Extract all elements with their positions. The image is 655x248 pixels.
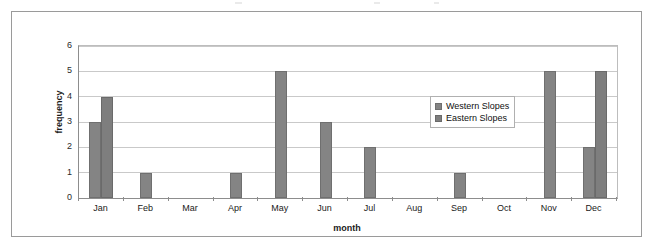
x-axis-tick	[437, 197, 438, 201]
y-axis-tick-label: 5	[48, 65, 72, 75]
scan-artifact	[434, 2, 439, 4]
x-axis-tick	[482, 197, 483, 201]
bar-feb-western	[140, 173, 152, 198]
x-axis-tick	[347, 197, 348, 201]
y-axis-tick-label: 0	[48, 192, 72, 202]
bar-group	[79, 46, 124, 198]
x-axis-tick-label-sep: Sep	[437, 203, 482, 213]
bar-dec-western	[583, 147, 595, 198]
chart-frame: frequency 0123456 JanFebMarAprMayJunJulA…	[11, 11, 642, 237]
x-axis-tick	[213, 197, 214, 201]
scan-artifact	[374, 2, 380, 4]
legend-swatch-icon	[435, 115, 442, 122]
x-axis-title: month	[78, 223, 616, 233]
x-axis-tick-label-apr: Apr	[213, 203, 258, 213]
legend-label: Western Slopes	[446, 101, 509, 112]
x-axis-tick-label-may: May	[257, 203, 302, 213]
bar-jan-eastern	[101, 97, 113, 198]
bar-group	[572, 46, 617, 198]
plot-area	[78, 45, 618, 199]
legend-label: Eastern Slopes	[446, 113, 507, 124]
chart-legend: Western SlopesEastern Slopes	[430, 96, 515, 128]
bar-nov-western	[544, 71, 556, 198]
x-axis-tick-labels: JanFebMarAprMayJunJulAugSepOctNovDec	[78, 203, 618, 217]
x-axis-tick	[123, 197, 124, 201]
bars-layer	[79, 46, 617, 198]
bar-group	[214, 46, 259, 198]
x-axis-tick-label-feb: Feb	[123, 203, 168, 213]
bar-group	[258, 46, 303, 198]
bar-may-western	[275, 71, 287, 198]
bar-chart-figure: frequency 0123456 JanFebMarAprMayJunJulA…	[12, 12, 643, 238]
x-axis-tick	[257, 197, 258, 201]
x-axis-tick-label-jan: Jan	[78, 203, 123, 213]
scan-artifact	[235, 2, 242, 4]
x-axis-tick-label-dec: Dec	[571, 203, 616, 213]
x-axis-tick-label-oct: Oct	[482, 203, 527, 213]
legend-item-eastern-slopes[interactable]: Eastern Slopes	[435, 112, 509, 124]
bar-group	[348, 46, 393, 198]
y-axis-tick-label: 6	[48, 40, 72, 50]
bar-jan-western	[89, 122, 101, 198]
y-axis-tick-label: 1	[48, 167, 72, 177]
x-axis-tick-label-nov: Nov	[526, 203, 571, 213]
y-axis-tick-label: 3	[48, 116, 72, 126]
x-axis-tick	[616, 197, 617, 201]
x-axis-tick-label-jul: Jul	[347, 203, 392, 213]
bar-sep-western	[454, 173, 466, 198]
chart-page: frequency 0123456 JanFebMarAprMayJunJulA…	[0, 0, 655, 248]
x-axis-tick	[78, 197, 79, 201]
bar-group	[303, 46, 348, 198]
x-axis-tick-label-mar: Mar	[168, 203, 213, 213]
legend-item-western-slopes[interactable]: Western Slopes	[435, 100, 509, 112]
x-axis-tick-label-jun: Jun	[302, 203, 347, 213]
x-axis-tick	[168, 197, 169, 201]
y-axis-tick-label: 2	[48, 141, 72, 151]
legend-swatch-icon	[435, 103, 442, 110]
x-axis-tick	[302, 197, 303, 201]
bar-jul-western	[364, 147, 376, 198]
x-axis-tick	[571, 197, 572, 201]
x-axis-ticks	[78, 197, 618, 202]
bar-dec-eastern	[595, 71, 607, 198]
bar-group	[124, 46, 169, 198]
x-axis-tick	[392, 197, 393, 201]
y-axis-tick-label: 4	[48, 91, 72, 101]
bar-apr-western	[230, 173, 242, 198]
x-axis-tick	[526, 197, 527, 201]
bar-group	[527, 46, 572, 198]
bar-jun-western	[320, 122, 332, 198]
bar-group	[169, 46, 214, 198]
x-axis-tick-label-aug: Aug	[392, 203, 437, 213]
